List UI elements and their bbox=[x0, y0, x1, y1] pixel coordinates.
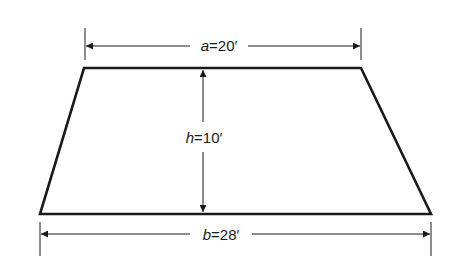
height-dimension-label: h=10′ bbox=[186, 129, 223, 146]
trapezoid-diagram: a=20′ h=10′ b=28′ bbox=[0, 0, 454, 265]
trapezoid-shape bbox=[40, 68, 431, 214]
top-dimension-label: a=20′ bbox=[201, 37, 238, 54]
bottom-dimension-label: b=28′ bbox=[203, 226, 240, 243]
